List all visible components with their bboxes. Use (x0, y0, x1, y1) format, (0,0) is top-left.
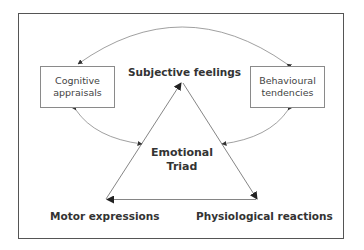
emotional-triad-line2: Triad (144, 160, 220, 174)
behavioural-tendencies-box: Behavioural tendencies (250, 66, 325, 108)
edge-cognitive-triad-curve (76, 110, 142, 144)
physiological-reactions-label: Physiological reactions (196, 210, 333, 222)
edge-behavioural-cognitive-curve (78, 27, 287, 64)
cognitive-appraisals-line1: Cognitive (53, 75, 102, 87)
cognitive-appraisals-box: Cognitive appraisals (40, 66, 115, 108)
edge-motor-to-subjective (106, 83, 181, 199)
edge-behavioural-triad-curve (222, 110, 288, 144)
behavioural-tendencies-line1: Behavioural (259, 75, 316, 87)
emotional-triad-line1: Emotional (144, 146, 220, 160)
cognitive-appraisals-line2: appraisals (53, 87, 102, 99)
behavioural-tendencies-line2: tendencies (259, 87, 316, 99)
motor-expressions-label: Motor expressions (50, 210, 159, 222)
emotional-triad-label: Emotional Triad (144, 146, 220, 174)
edge-subjective-to-physiological (183, 83, 257, 199)
subjective-feelings-label: Subjective feelings (128, 66, 241, 78)
